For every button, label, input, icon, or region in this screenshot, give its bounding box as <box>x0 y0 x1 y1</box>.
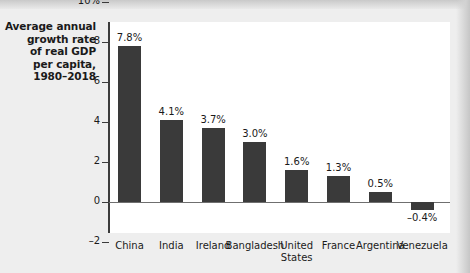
bar-value-label: 1.6% <box>274 156 320 167</box>
y-tick-label: 6 <box>58 75 100 86</box>
bar-india <box>160 120 183 202</box>
bar-value-label: 3.0% <box>232 128 278 139</box>
bar-value-label: –0.4% <box>399 212 445 223</box>
bar-value-label: 0.5% <box>357 178 403 189</box>
bar-bangladesh <box>243 142 266 202</box>
y-tick-label: 8 <box>58 35 100 46</box>
category-label-line: Venezuela <box>382 240 462 252</box>
bar-value-label: 7.8% <box>107 32 153 43</box>
chart-figure: Average annual growth rate of real GDP p… <box>0 0 470 273</box>
bar-value-label: 4.1% <box>148 106 194 117</box>
bar-venezuela <box>411 202 434 210</box>
bar-united-states <box>285 170 308 202</box>
bar-ireland <box>202 128 225 202</box>
x-tick-label-venezuela: Venezuela <box>382 240 462 252</box>
bar-value-label: 1.3% <box>316 162 362 173</box>
y-tick-label: 2 <box>58 155 100 166</box>
y-axis-labels: 10%86420–2 <box>56 0 100 273</box>
y-tick-mark <box>102 2 109 4</box>
bar-argentina <box>369 192 392 202</box>
y-tick-label: 10% <box>58 0 100 6</box>
y-tick-mark <box>102 162 109 164</box>
zero-baseline <box>108 202 450 203</box>
category-label-line: States <box>257 252 337 264</box>
y-tick-mark <box>102 202 109 204</box>
y-tick-label: 0 <box>58 195 100 206</box>
bar-france <box>327 176 350 202</box>
y-tick-mark <box>102 82 109 84</box>
y-tick-label: 4 <box>58 115 100 126</box>
bar-china <box>118 46 141 202</box>
bar-value-label: 3.7% <box>190 114 236 125</box>
scan-artifact-right <box>456 0 470 273</box>
y-tick-mark <box>102 122 109 124</box>
